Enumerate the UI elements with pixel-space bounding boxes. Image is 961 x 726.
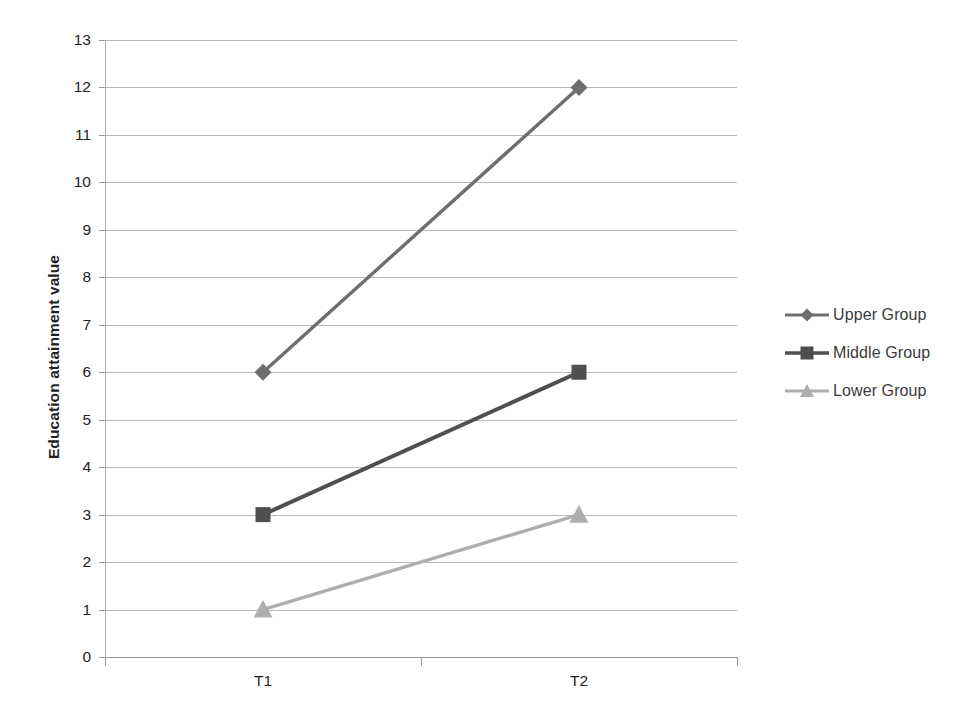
legend-label-upper-group: Upper Group (830, 306, 927, 324)
x-axis-tick (421, 657, 422, 666)
legend-marker-square-icon (784, 342, 830, 364)
plot-area (105, 40, 737, 657)
x-axis-tick-label: T1 (203, 672, 323, 690)
y-axis-tick-label: 3 (31, 506, 91, 524)
y-axis-tick-label: 4 (31, 458, 91, 476)
x-axis-tick (737, 657, 738, 666)
gridline (105, 420, 737, 421)
gridline (105, 610, 737, 611)
legend-item-lower-group[interactable]: Lower Group (784, 372, 959, 410)
y-axis-tick-label: 11 (31, 126, 91, 144)
x-axis-tick-label: T2 (519, 672, 639, 690)
gridline (105, 40, 737, 41)
legend-label-lower-group: Lower Group (830, 382, 927, 400)
y-axis-tick-label: 12 (31, 78, 91, 96)
gridline (105, 87, 737, 88)
y-axis-tick-label: 10 (31, 173, 91, 191)
legend-label-middle-group: Middle Group (830, 344, 930, 362)
y-axis-tick-label: 6 (31, 363, 91, 381)
chart-legend: Upper Group Middle Group Lower Group (784, 296, 959, 410)
y-axis-tick-label: 2 (31, 553, 91, 571)
y-axis-tick-label: 1 (31, 601, 91, 619)
gridline (105, 467, 737, 468)
y-axis-tick-label: 13 (31, 31, 91, 49)
legend-item-middle-group[interactable]: Middle Group (784, 334, 959, 372)
gridline (105, 372, 737, 373)
y-axis-tick-label: 9 (31, 221, 91, 239)
legend-item-upper-group[interactable]: Upper Group (784, 296, 959, 334)
y-axis-tick-label: 5 (31, 411, 91, 429)
gridline (105, 325, 737, 326)
legend-marker-diamond-icon (784, 304, 830, 326)
legend-marker-triangle-icon (784, 380, 830, 402)
gridline (105, 230, 737, 231)
gridline (105, 515, 737, 516)
line-chart: Education attainment value 1312111098765… (0, 0, 961, 726)
y-axis-tick-label: 0 (31, 648, 91, 666)
x-axis-tick (105, 657, 106, 666)
gridline (105, 562, 737, 563)
gridline (105, 182, 737, 183)
gridline (105, 135, 737, 136)
y-axis-tick-label: 8 (31, 268, 91, 286)
gridline (105, 277, 737, 278)
y-axis-tick-label: 7 (31, 316, 91, 334)
